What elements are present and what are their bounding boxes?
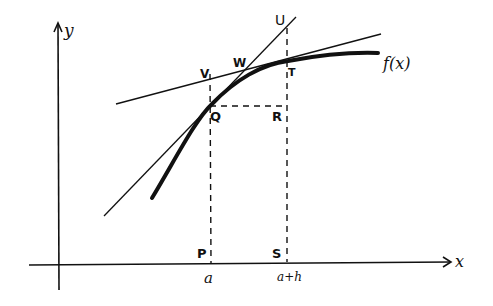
tick-label-a: a [204,269,213,287]
point-label-U: U [275,12,285,28]
curve-f [152,53,378,198]
y-axis-label: y [63,20,74,40]
point-label-R: R [272,109,282,124]
point-label-T: T [288,66,296,79]
point-label-V: V [200,67,210,81]
point-label-Q: Q [210,109,221,124]
x-axis-label: x [455,252,464,271]
derivative-diagram: y x f(x) V W U T Q R P S a a+h [0,0,493,306]
point-label-S: S [272,246,281,261]
tick-label-a-plus-h: a+h [277,270,302,284]
tangent-line-T [116,34,381,104]
point-label-W: W [233,56,246,70]
point-label-P: P [197,246,207,261]
y-axis [58,24,59,290]
x-axis [29,262,451,265]
curve-label: f(x) [382,54,410,73]
